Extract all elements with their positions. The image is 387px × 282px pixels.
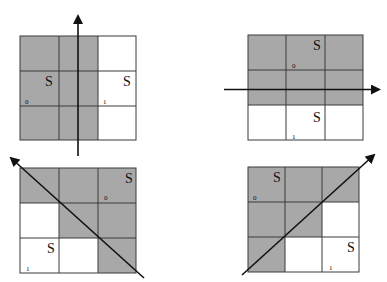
- index-label: 0: [25, 98, 29, 106]
- s-label: S: [123, 74, 131, 89]
- index-label: 1: [329, 264, 333, 272]
- panel-top-right: S 0 S 1: [224, 35, 379, 141]
- panel-bottom-right: S 0 S 1: [242, 155, 374, 275]
- index-label: 0: [104, 194, 108, 202]
- s-label: S: [313, 110, 321, 125]
- index-label: 0: [292, 62, 296, 70]
- s-label: S: [347, 240, 355, 255]
- figure-canvas: S S 0 1 S 0 S 1: [0, 0, 387, 282]
- panel-bottom-left: S 0 S 1: [11, 158, 144, 278]
- s-label: S: [47, 241, 55, 256]
- index-label: 1: [292, 133, 296, 141]
- s-label: S: [273, 170, 281, 185]
- shaded-region: [20, 168, 136, 273]
- panel-top-left: S S 0 1: [20, 16, 136, 156]
- index-label: 1: [103, 98, 107, 106]
- s-label: S: [125, 171, 133, 186]
- s-label: S: [313, 38, 321, 53]
- index-label: 1: [26, 265, 30, 273]
- index-label: 0: [253, 194, 257, 202]
- s-label: S: [45, 74, 53, 89]
